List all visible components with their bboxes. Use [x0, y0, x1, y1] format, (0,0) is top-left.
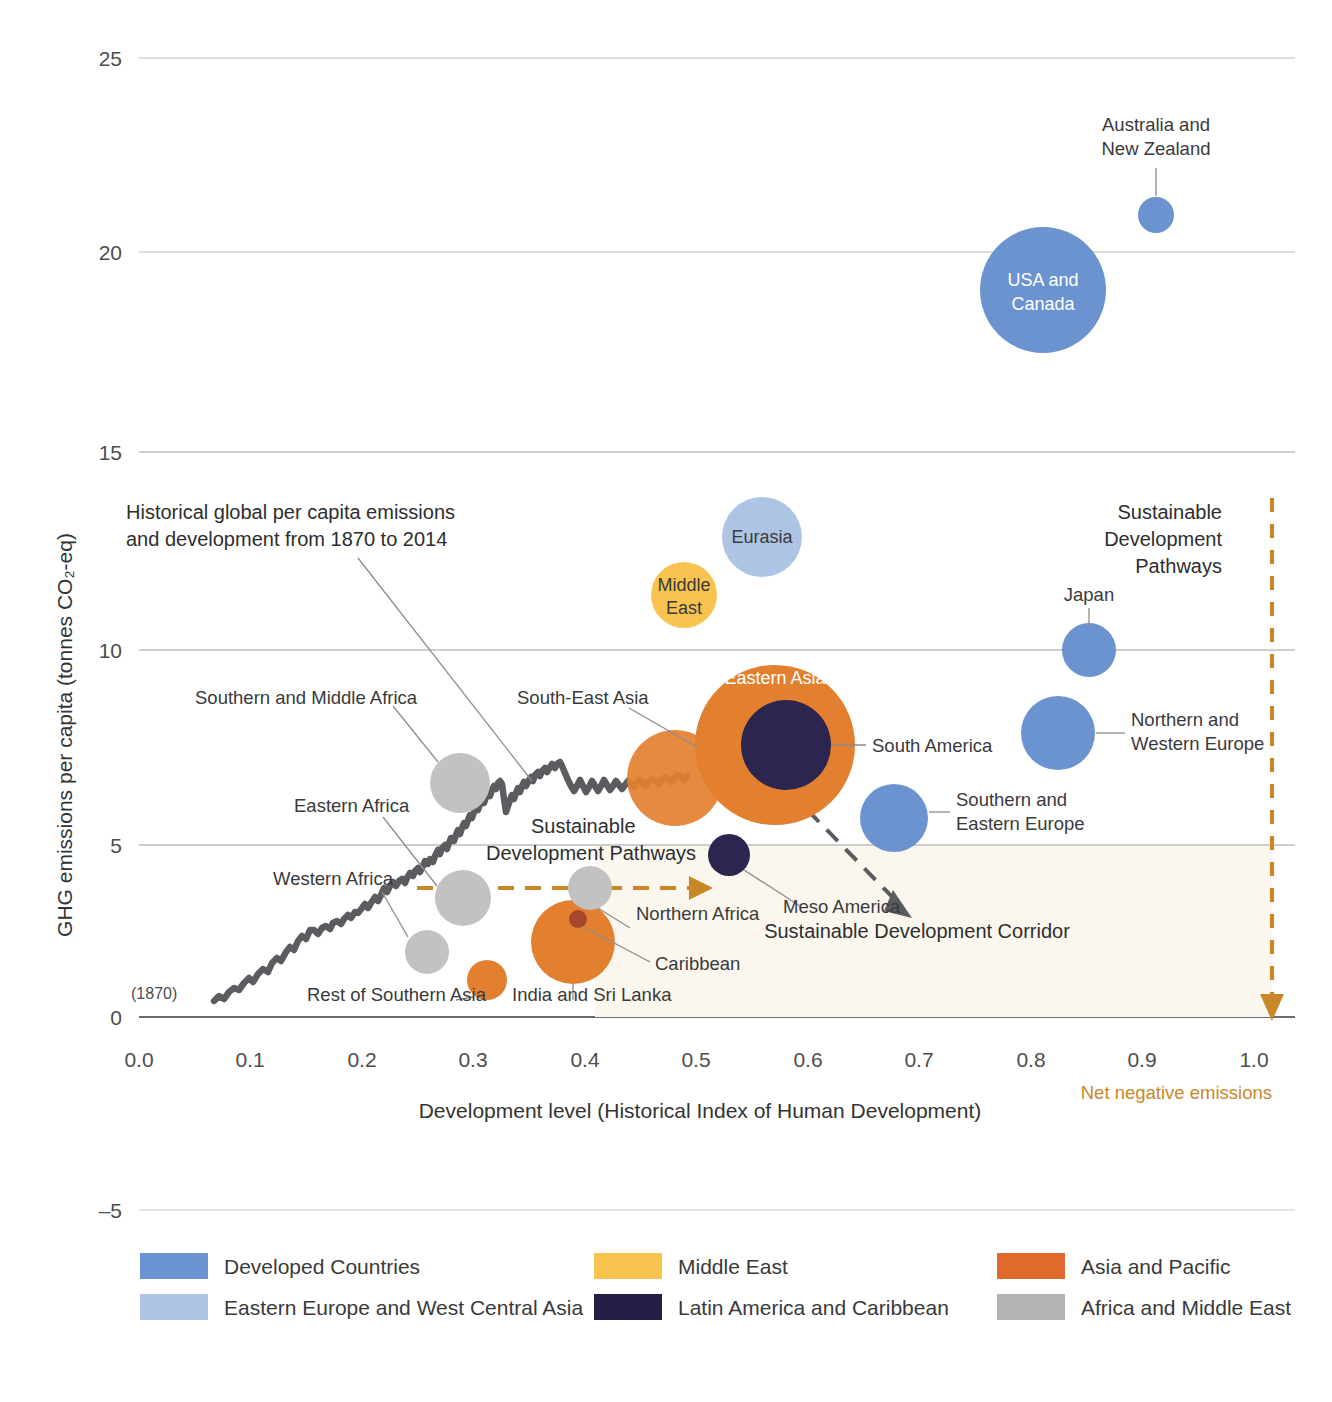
y-axis-title: GHG emissions per capita (tonnes CO₂-eq) — [53, 533, 76, 937]
x-tick-0: 0.0 — [124, 1048, 153, 1071]
callout-india-sri-lanka: India and Sri Lanka — [512, 984, 672, 1005]
chart-page: 25 20 15 10 5 0 –5 GHG emissions per cap… — [0, 0, 1332, 1402]
x-tick-1: 0.1 — [235, 1048, 264, 1071]
callout-northern-africa: Northern Africa — [636, 903, 760, 924]
callout-caribbean: Caribbean — [655, 953, 740, 974]
callout-southern-and-middle-africa: Southern and Middle Africa — [195, 687, 418, 708]
bubble-usa-and-canada[interactable] — [980, 227, 1106, 353]
bubble-eastern-africa[interactable] — [435, 870, 491, 926]
annotation-pathway-right-line2: Development — [1104, 528, 1222, 550]
callout-eastern-africa: Eastern Africa — [294, 795, 410, 816]
bubble-middle-east[interactable] — [651, 562, 717, 628]
legend-swatch-developed-countries — [140, 1253, 208, 1279]
annotation-pathway-right-line1: Sustainable — [1117, 501, 1222, 523]
y-tick-10: 10 — [99, 639, 122, 662]
gridlines — [139, 58, 1295, 1210]
legend-label-middle-east: Middle East — [678, 1255, 788, 1278]
x-tick-8: 0.8 — [1016, 1048, 1045, 1071]
legend: Developed Countries Eastern Europe and W… — [140, 1253, 1291, 1320]
bubble-label-canada: Canada — [1011, 294, 1075, 314]
ghg-development-bubble-chart: 25 20 15 10 5 0 –5 GHG emissions per cap… — [0, 0, 1332, 1402]
callout-japan: Japan — [1064, 584, 1114, 605]
annotation-net-negative-emissions: Net negative emissions — [1081, 1082, 1272, 1103]
callout-meso-america: Meso America — [783, 896, 901, 917]
legend-label-eastern-europe-west-central-asia: Eastern Europe and West Central Asia — [224, 1296, 583, 1319]
x-tick-9: 0.9 — [1127, 1048, 1156, 1071]
leader-line-historical — [358, 558, 532, 781]
x-tick-6: 0.6 — [793, 1048, 822, 1071]
callout-south-america: South America — [872, 735, 993, 756]
legend-swatch-latin-america-caribbean — [594, 1294, 662, 1320]
bubble-japan[interactable] — [1062, 623, 1116, 677]
annotation-historical-line2: and development from 1870 to 2014 — [126, 528, 447, 550]
callout-australia-nz-line2: New Zealand — [1101, 138, 1210, 159]
bubble-label-middle-east-line2: East — [666, 598, 702, 618]
leader-line-southern-middle-africa — [393, 706, 438, 762]
callout-rest-of-southern-asia: Rest of Southern Asia — [307, 984, 487, 1005]
bubble-meso-america[interactable] — [708, 834, 750, 876]
bubble-south-america[interactable] — [741, 700, 831, 790]
callout-nw-europe-line2: Western Europe — [1131, 733, 1264, 754]
annotation-pathway-left-line1: Sustainable — [531, 815, 636, 837]
callout-nw-europe-line1: Northern and — [1131, 709, 1239, 730]
legend-swatch-africa-and-middle-east — [997, 1294, 1065, 1320]
bubble-australia-and-new-zealand[interactable] — [1138, 197, 1174, 233]
x-tick-4: 0.4 — [570, 1048, 600, 1071]
legend-label-asia-and-pacific: Asia and Pacific — [1081, 1255, 1230, 1278]
bubble-label-eastern-asia: Eastern Asia — [724, 668, 826, 688]
legend-swatch-middle-east — [594, 1253, 662, 1279]
bubble-south-east-asia[interactable] — [627, 730, 723, 826]
callout-se-europe-line1: Southern and — [956, 789, 1067, 810]
bubble-western-africa[interactable] — [405, 930, 449, 974]
bubble-northern-and-western-europe[interactable] — [1021, 696, 1095, 770]
y-tick-0: 0 — [110, 1006, 122, 1029]
x-tick-3: 0.3 — [458, 1048, 487, 1071]
leader-line-western-africa — [382, 892, 408, 937]
y-tick-5: 5 — [110, 834, 122, 857]
bubble-caribbean[interactable] — [569, 910, 587, 928]
bubble-label-eurasia: Eurasia — [731, 527, 793, 547]
callout-australia-nz-line1: Australia and — [1102, 114, 1210, 135]
callout-se-europe-line2: Eastern Europe — [956, 813, 1085, 834]
x-tick-2: 0.2 — [347, 1048, 376, 1071]
y-tick-20: 20 — [99, 241, 122, 264]
bubble-northern-africa[interactable] — [568, 866, 612, 910]
y-tick-25: 25 — [99, 47, 122, 70]
callout-south-east-asia: South-East Asia — [517, 687, 649, 708]
callout-western-africa: Western Africa — [273, 868, 394, 889]
legend-swatch-asia-and-pacific — [997, 1253, 1065, 1279]
annotation-pathway-left-line2: Development Pathways — [486, 842, 696, 864]
legend-label-latin-america-caribbean: Latin America and Caribbean — [678, 1296, 949, 1319]
x-axis-title: Development level (Historical Index of H… — [419, 1099, 982, 1122]
y-tick-neg5: –5 — [99, 1199, 122, 1222]
annotation-corridor: Sustainable Development Corridor — [764, 920, 1070, 942]
annotation-pathway-right-line3: Pathways — [1135, 555, 1222, 577]
annotation-start-year: (1870) — [131, 985, 177, 1002]
legend-swatch-eastern-europe-west-central-asia — [140, 1294, 208, 1320]
bubble-southern-and-eastern-europe[interactable] — [860, 784, 928, 852]
x-tick-10: 1.0 — [1239, 1048, 1268, 1071]
bubble-label-usa: USA and — [1007, 270, 1078, 290]
x-tick-5: 0.5 — [681, 1048, 710, 1071]
x-axis-ticks: 0.0 0.1 0.2 0.3 0.4 0.5 0.6 0.7 0.8 0.9 … — [124, 1048, 1268, 1071]
legend-label-africa-and-middle-east: Africa and Middle East — [1081, 1296, 1291, 1319]
bubble-southern-and-middle-africa[interactable] — [430, 753, 490, 813]
y-axis-ticks: 25 20 15 10 5 0 –5 — [99, 47, 122, 1222]
x-tick-7: 0.7 — [904, 1048, 933, 1071]
y-tick-15: 15 — [99, 441, 122, 464]
legend-label-developed-countries: Developed Countries — [224, 1255, 420, 1278]
bubble-label-middle-east-line1: Middle — [657, 575, 710, 595]
annotation-historical-line1: Historical global per capita emissions — [126, 501, 455, 523]
